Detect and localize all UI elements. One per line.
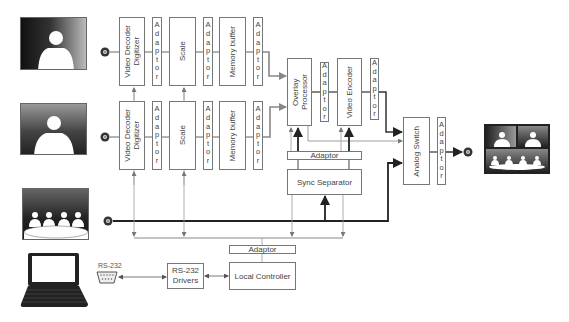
composite-video-icon [486,126,548,172]
adaptor-letter: r [373,110,376,119]
scale-2: Scale [169,101,196,170]
analog-switch: Analog Switch [403,117,430,185]
sync-adaptor: Adaptor [287,151,362,160]
controller-adaptor: Adaptor [229,245,296,254]
overlay-adaptor: Adaptor [320,62,329,122]
rs232-drivers: RS-232 Drivers [167,263,204,289]
adaptor-1c: Adaptor [253,17,263,86]
output-adaptor: Adaptor [437,117,446,185]
video-decoder-digitizer-2: Video Decoder Digitizer [119,101,145,170]
rs232-connector-icon [97,272,117,283]
adaptor-letter: r [323,113,326,122]
adaptor-2b: Adaptor [203,101,213,170]
adaptor-1a: Adaptor [152,17,162,86]
video-decoder-digitizer-1: Video Decoder Digitizer [119,17,145,86]
composite-output-monitor [484,124,550,174]
video-encoder: Video Encoder [337,58,362,126]
adaptor-letter: r [207,157,210,166]
overlay-processor: Overlay Processor [287,58,312,126]
adaptor-letter: r [156,157,159,166]
person-silhouette-icon [21,104,87,155]
adaptor-letter: r [257,73,260,82]
sync-separator: Sync Separator [287,169,362,195]
camera-1-image [20,17,87,70]
group-silhouette-icon [23,189,89,240]
adaptor-letter: r [207,73,210,82]
scale-1: Scale [169,17,196,86]
adaptor-2c: Adaptor [253,101,263,170]
adaptor-2a: Adaptor [152,101,162,170]
camera-2-image [20,103,87,155]
adaptor-letter: r [257,157,260,166]
laptop-icon [21,253,88,307]
rs232-port-label: RS-232 [98,262,122,269]
adaptor-letter: r [156,73,159,82]
local-controller: Local Controller [229,262,296,290]
memory-buffer-1: Memory buffer [219,17,246,86]
camera-3-image [22,188,89,240]
memory-buffer-2: Memory buffer [219,101,246,170]
encoder-adaptor: Adaptor [370,58,379,120]
adaptor-1b: Adaptor [203,17,213,86]
person-silhouette-icon [21,18,87,70]
adaptor-letter: r [440,172,443,181]
